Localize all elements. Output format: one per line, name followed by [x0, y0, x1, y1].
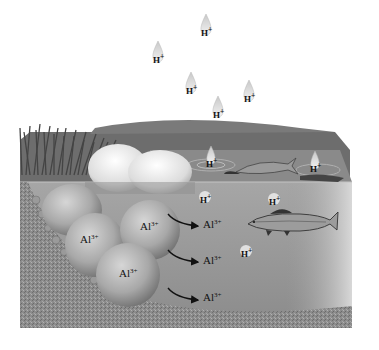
h-ion-label: H+	[241, 247, 252, 259]
h-ion-label: H+	[213, 108, 224, 120]
h-ion-label: H+	[269, 195, 280, 207]
h-ion-label: H+	[201, 26, 212, 38]
acid-rain-diagram: H+ H+ H+ H+ H+ H+ H+ H+ H+ H+ Al3+ Al3+ …	[0, 0, 379, 350]
illustration	[0, 0, 379, 350]
al-ion-label: Al3+	[80, 234, 98, 245]
al-ion-released-label: Al3+	[203, 292, 221, 303]
h-ion-label: H+	[153, 53, 164, 65]
al-ion-label: Al3+	[140, 221, 158, 232]
h-ion-label: H+	[206, 157, 217, 169]
h-ion-label: H+	[244, 92, 255, 104]
al-ion-label: Al3+	[119, 268, 137, 279]
al-ion-released-label: Al3+	[203, 255, 221, 266]
h-ion-label: H+	[310, 162, 321, 174]
al-ion-released-label: Al3+	[203, 219, 221, 230]
h-ion-label: H+	[186, 84, 197, 96]
h-ion-label: H+	[200, 193, 211, 205]
